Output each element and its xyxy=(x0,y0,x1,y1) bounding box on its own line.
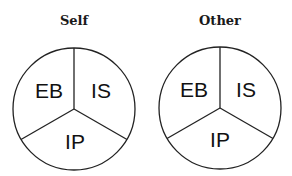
other-segment-is: IS xyxy=(236,78,256,101)
other-segment-eb: EB xyxy=(180,78,208,101)
self-pie: EB IS IP xyxy=(13,48,135,170)
other-segment-ip: IP xyxy=(210,128,230,151)
pie-diagrams: EB IS IP EB IS IP xyxy=(0,0,292,176)
self-segment-ip: IP xyxy=(65,130,85,153)
self-segment-eb: EB xyxy=(35,79,63,102)
self-segment-is: IS xyxy=(91,79,111,102)
other-pie: EB IS IP xyxy=(159,47,281,169)
